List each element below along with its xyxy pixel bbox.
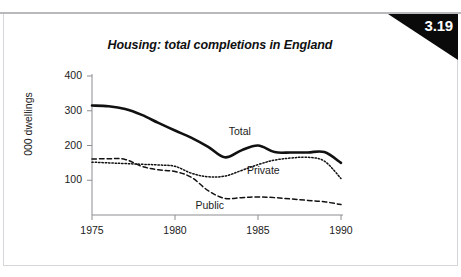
- series-line-public: [92, 159, 341, 205]
- y-tick-label: 300: [56, 104, 82, 116]
- x-tick-label: 1975: [72, 224, 112, 236]
- series-label-private: Private: [247, 164, 280, 176]
- y-tick-label: 100: [56, 173, 82, 185]
- series-line-total: [92, 106, 341, 163]
- x-tick-label: 1990: [321, 224, 361, 236]
- y-tick-label: 200: [56, 139, 82, 151]
- y-tick-label: 400: [56, 69, 82, 81]
- x-tick-label: 1980: [155, 224, 195, 236]
- series-label-public: Public: [196, 199, 225, 211]
- series-label-total: Total: [229, 125, 251, 137]
- x-tick-label: 1985: [238, 224, 278, 236]
- figure-container: 3.19 Housing: total completions in Engla…: [0, 0, 461, 277]
